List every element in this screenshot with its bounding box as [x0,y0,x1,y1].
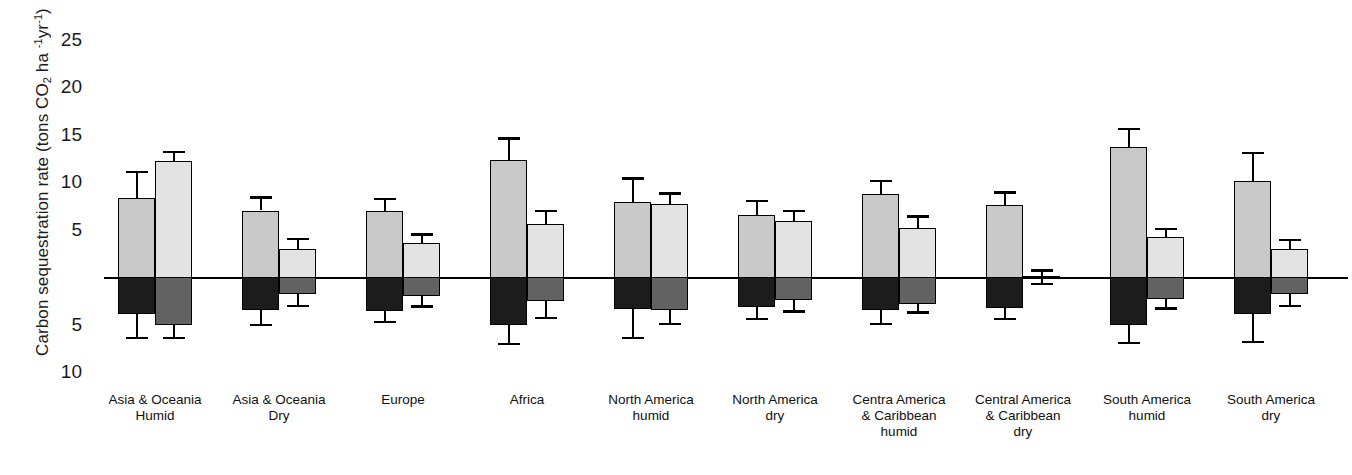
bar-positive [614,202,651,278]
error-bar-lower-cap [870,323,892,325]
bar-group [366,20,440,386]
error-bar-lower-cap [126,337,148,339]
error-bar-upper-line [136,172,138,199]
error-bar-lower-line [173,325,175,338]
x-category-label: Asia & OceaniaHumid [93,392,217,424]
bar-negative [490,277,527,325]
bar-positive [403,243,440,278]
y-tick-15: 15 [36,125,82,144]
error-bar-upper-cap [535,210,557,212]
bar-group [490,20,564,386]
error-bar-upper-line [880,181,882,194]
bar-positive [155,161,192,278]
error-bar-upper-line [1289,240,1291,250]
y-tick-25: 25 [36,30,82,49]
x-category-label-line: South America [1209,392,1333,408]
error-bar-upper-cap [126,171,148,173]
error-bar-upper-cap [250,196,272,198]
x-category-label-line: Asia & Oceania [217,392,341,408]
error-bar-upper-cap [1242,152,1264,154]
bar-group [118,20,192,386]
bar-positive [242,211,279,279]
error-bar-upper-line [1004,192,1006,204]
bar-positive [899,228,936,278]
x-category-label-line: dry [713,408,837,424]
error-bar-upper-cap [1279,239,1301,241]
error-bar-upper-line [632,178,634,202]
bar-positive [1271,249,1308,278]
bar-negative [614,277,651,309]
x-category-label: Europe [341,392,465,408]
bar-negative [651,277,688,310]
error-bar-upper-cap [1155,228,1177,230]
error-bar-upper-cap [287,238,309,240]
error-bar-upper-line [260,197,262,210]
bar-negative [986,277,1023,308]
error-bar-lower-line [260,310,262,324]
x-category-label-line: & Caribbean [961,408,1085,424]
x-category-label-line: North America [589,392,713,408]
error-bar-lower-cap [994,318,1016,320]
x-category-label-line: humid [589,408,713,424]
error-bar-upper-cap [1118,128,1140,130]
bar-negative [118,277,155,314]
error-bar-upper-cap [374,198,396,200]
bar-positive [862,194,899,278]
bar-negative [738,277,775,307]
error-bar-upper-line [508,138,510,160]
bar-positive [651,204,688,278]
bar-negative [1147,277,1184,299]
x-category-label-line: Asia & Oceania [93,392,217,408]
x-category-label: South Americahumid [1085,392,1209,424]
error-bar-lower-cap [1031,283,1053,285]
error-bar-upper-cap [498,137,520,139]
error-bar-upper-cap [163,151,185,153]
y-axis-title-tail: ) [33,8,52,14]
error-bar-lower-cap [498,343,520,345]
bar-positive [279,249,316,279]
bar-negative [1271,277,1308,294]
error-bar-lower-line [632,309,634,338]
x-category-label-line: Africa [465,392,589,408]
x-category-label-line: Humid [93,408,217,424]
bar-negative [155,277,192,325]
error-bar-lower-cap [1118,342,1140,344]
error-bar-lower-cap [907,311,929,313]
error-bar-lower-cap [411,305,433,307]
error-bar-lower-line [136,314,138,338]
x-category-label-line: South America [1085,392,1209,408]
y-tick-10-neg: 10 [36,362,82,381]
error-bar-upper-cap [622,177,644,179]
bar-group [1110,20,1184,386]
error-bar-upper-line [297,239,299,249]
bar-negative [899,277,936,304]
error-bar-upper-cap [1031,269,1053,271]
error-bar-lower-line [508,325,510,344]
error-bar-upper-line [669,193,671,203]
x-category-label: Africa [465,392,589,408]
error-bar-upper-line [1128,129,1130,147]
bar-negative [242,277,279,310]
bar-group [614,20,688,386]
error-bar-lower-cap [535,317,557,319]
bar-positive [986,205,1023,278]
error-bar-upper-cap [870,180,892,182]
error-bar-lower-line [669,310,671,323]
bar-negative [1110,277,1147,325]
error-bar-upper-line [756,201,758,215]
x-category-label-line: Europe [341,392,465,408]
x-category-label-line: Central America [961,392,1085,408]
error-bar-upper-cap [411,233,433,235]
error-bar-lower-line [1128,325,1130,343]
x-category-label-line: & Caribbean [837,408,961,424]
bar-positive [738,215,775,278]
error-bar-lower-cap [163,337,185,339]
x-category-label: North Americahumid [589,392,713,424]
bar-positive [490,160,527,278]
error-bar-lower-cap [659,323,681,325]
error-bar-upper-line [793,211,795,221]
x-category-label-line: Dry [217,408,341,424]
x-category-label: Centra America& Caribbeanhumid [837,392,961,440]
y-tick-10: 10 [36,172,82,191]
bar-group [862,20,936,386]
